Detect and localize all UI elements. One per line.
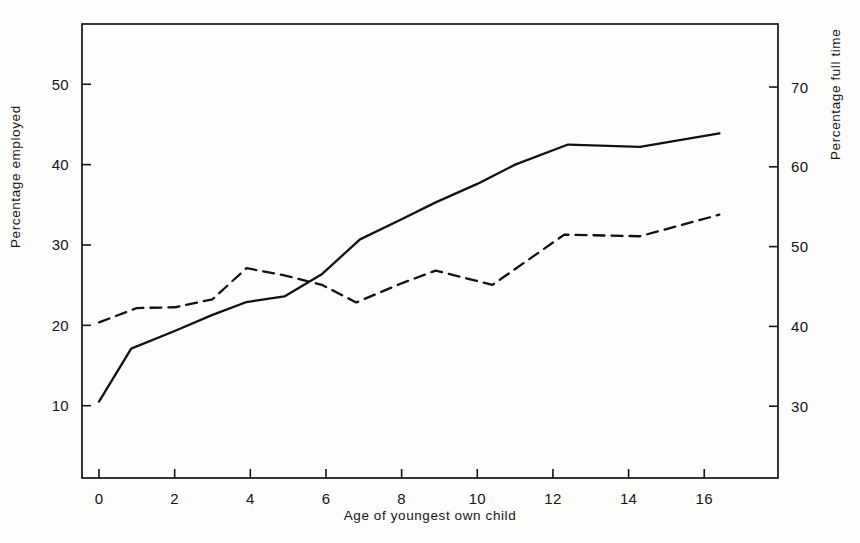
svg-text:70: 70 <box>791 79 808 96</box>
right-axis-ticks: 3040506070 <box>769 79 808 415</box>
svg-text:10: 10 <box>469 490 486 507</box>
right-axis-label: Percentage full time <box>828 29 843 160</box>
svg-text:40: 40 <box>52 156 69 173</box>
series-employed <box>99 133 719 401</box>
chart-figure: 1020304050 3040506070 0246810121416 Perc… <box>0 0 860 543</box>
svg-text:2: 2 <box>170 490 179 507</box>
svg-text:0: 0 <box>95 490 104 507</box>
bottom-axis-ticks: 0246810121416 <box>95 469 713 507</box>
svg-text:4: 4 <box>246 490 255 507</box>
svg-text:60: 60 <box>791 158 808 175</box>
svg-text:16: 16 <box>696 490 713 507</box>
left-axis-label: Percentage employed <box>8 105 23 248</box>
svg-text:10: 10 <box>52 397 69 414</box>
line-chart-canvas: 1020304050 3040506070 0246810121416 <box>0 0 860 543</box>
svg-text:30: 30 <box>791 398 808 415</box>
svg-text:40: 40 <box>791 318 808 335</box>
svg-text:8: 8 <box>397 490 406 507</box>
svg-text:20: 20 <box>52 317 69 334</box>
left-axis-ticks: 1020304050 <box>52 76 91 414</box>
svg-text:6: 6 <box>322 490 331 507</box>
svg-text:50: 50 <box>791 238 808 255</box>
svg-text:50: 50 <box>52 76 69 93</box>
data-series-group <box>99 133 719 401</box>
svg-text:12: 12 <box>544 490 561 507</box>
axis-frame <box>82 24 778 478</box>
svg-text:14: 14 <box>620 490 637 507</box>
x-axis-label: Age of youngest own child <box>0 508 860 523</box>
series-full-time <box>99 215 719 323</box>
svg-text:30: 30 <box>52 236 69 253</box>
